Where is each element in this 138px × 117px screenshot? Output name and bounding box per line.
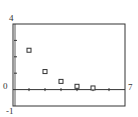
plot-border — [13, 24, 125, 106]
data-point-marker — [27, 48, 31, 52]
data-point-marker — [91, 86, 95, 90]
data-point-marker — [75, 84, 79, 88]
scatter-chart: 4 0 -1 7 — [0, 0, 138, 117]
plot-frame — [13, 24, 125, 106]
origin-label: 0 — [3, 81, 8, 91]
y-max-label: 4 — [9, 13, 14, 23]
y-min-label: -1 — [6, 106, 14, 116]
data-points — [27, 48, 95, 90]
data-point-marker — [43, 70, 47, 74]
data-point-marker — [59, 79, 63, 83]
x-max-label: 7 — [128, 82, 133, 92]
